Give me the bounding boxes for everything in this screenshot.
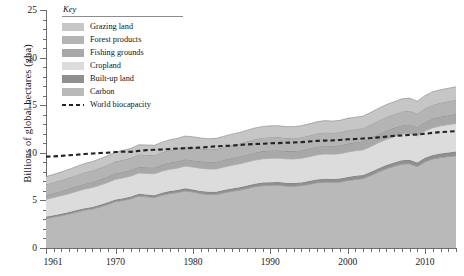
x-tick-label: 1961 bbox=[44, 257, 63, 267]
x-tick-label: 2000 bbox=[338, 257, 357, 267]
x-tick-minor bbox=[224, 248, 225, 252]
legend-color-swatch bbox=[62, 49, 84, 57]
x-tick-minor bbox=[448, 248, 449, 252]
x-tick-minor bbox=[185, 248, 186, 252]
x-tick-minor bbox=[131, 248, 132, 252]
x-tick-minor bbox=[247, 248, 248, 252]
legend-item-label: Fishing grounds bbox=[90, 48, 144, 58]
x-tick-minor bbox=[85, 248, 86, 252]
x-tick-minor bbox=[208, 248, 209, 252]
legend-item-label: Built-up land bbox=[90, 74, 134, 84]
x-tick-minor bbox=[123, 248, 124, 252]
x-tick-minor bbox=[170, 248, 171, 252]
legend-items: Grazing landForest productsFishing groun… bbox=[62, 20, 184, 111]
x-tick-minor bbox=[255, 248, 256, 252]
y-tick-label: 20 bbox=[28, 53, 38, 63]
x-tick-minor bbox=[108, 248, 109, 252]
x-tick-minor bbox=[239, 248, 240, 252]
x-tick-minor bbox=[77, 248, 78, 252]
x-tick-major bbox=[116, 248, 117, 254]
legend-divider bbox=[62, 16, 183, 17]
x-tick-minor bbox=[402, 248, 403, 252]
legend-color-swatch bbox=[62, 23, 84, 31]
y-tick-label: 5 bbox=[32, 195, 37, 205]
x-tick-label: 1980 bbox=[183, 257, 202, 267]
x-tick-minor bbox=[139, 248, 140, 252]
x-tick-major bbox=[193, 248, 194, 254]
x-tick-minor bbox=[386, 248, 387, 252]
x-tick-minor bbox=[379, 248, 380, 252]
x-tick-label: 1970 bbox=[106, 257, 125, 267]
legend-item: World biocapacity bbox=[62, 98, 184, 111]
x-tick-minor bbox=[324, 248, 325, 252]
chart-legend: Key Grazing landForest productsFishing g… bbox=[62, 4, 184, 111]
y-tick-label: 25 bbox=[28, 5, 38, 15]
x-tick-minor bbox=[371, 248, 372, 252]
x-tick-minor bbox=[441, 248, 442, 252]
legend-item: Grazing land bbox=[62, 20, 184, 33]
x-tick-minor bbox=[417, 248, 418, 252]
y-tick-label: 0 bbox=[32, 243, 37, 253]
legend-item-label: World biocapacity bbox=[90, 100, 151, 110]
x-tick-minor bbox=[332, 248, 333, 252]
y-tick-label: 15 bbox=[28, 100, 38, 110]
x-tick-minor bbox=[54, 248, 55, 252]
x-tick-minor bbox=[69, 248, 70, 252]
legend-color-swatch bbox=[62, 88, 84, 96]
x-tick-minor bbox=[355, 248, 356, 252]
x-tick-minor bbox=[301, 248, 302, 252]
x-tick-minor bbox=[317, 248, 318, 252]
legend-title: Key bbox=[62, 4, 184, 15]
x-tick-major bbox=[348, 248, 349, 254]
x-tick-minor bbox=[216, 248, 217, 252]
chart-figure: Billions of global hectares (gha) 051015… bbox=[0, 0, 464, 276]
x-tick-minor bbox=[363, 248, 364, 252]
legend-item-label: Forest products bbox=[90, 35, 141, 45]
legend-item: Fishing grounds bbox=[62, 46, 184, 59]
x-tick-minor bbox=[154, 248, 155, 252]
legend-item-label: Grazing land bbox=[90, 22, 133, 32]
x-tick-minor bbox=[100, 248, 101, 252]
x-tick-minor bbox=[162, 248, 163, 252]
y-tick-label: 10 bbox=[28, 148, 38, 158]
legend-color-swatch bbox=[62, 62, 84, 70]
legend-item: Cropland bbox=[62, 59, 184, 72]
x-tick-minor bbox=[394, 248, 395, 252]
x-tick-minor bbox=[309, 248, 310, 252]
legend-color-swatch bbox=[62, 36, 84, 44]
x-tick-major bbox=[46, 248, 47, 254]
x-tick-minor bbox=[286, 248, 287, 252]
legend-dash-swatch bbox=[62, 101, 84, 109]
x-tick-minor bbox=[147, 248, 148, 252]
x-tick-minor bbox=[456, 248, 457, 252]
x-tick-minor bbox=[61, 248, 62, 252]
x-tick-minor bbox=[232, 248, 233, 252]
x-tick-minor bbox=[433, 248, 434, 252]
x-tick-minor bbox=[410, 248, 411, 252]
legend-item-label: Carbon bbox=[90, 87, 114, 97]
legend-item: Carbon bbox=[62, 85, 184, 98]
x-tick-minor bbox=[340, 248, 341, 252]
x-tick-label: 1990 bbox=[261, 257, 280, 267]
x-tick-minor bbox=[263, 248, 264, 252]
x-tick-label: 2010 bbox=[416, 257, 435, 267]
x-tick-minor bbox=[294, 248, 295, 252]
legend-item: Built-up land bbox=[62, 72, 184, 85]
legend-item-label: Cropland bbox=[90, 61, 121, 71]
legend-item: Forest products bbox=[62, 33, 184, 46]
x-tick-minor bbox=[278, 248, 279, 252]
x-tick-major bbox=[270, 248, 271, 254]
x-tick-minor bbox=[92, 248, 93, 252]
x-tick-minor bbox=[178, 248, 179, 252]
legend-color-swatch bbox=[62, 75, 84, 83]
x-tick-minor bbox=[201, 248, 202, 252]
x-tick-major bbox=[425, 248, 426, 254]
